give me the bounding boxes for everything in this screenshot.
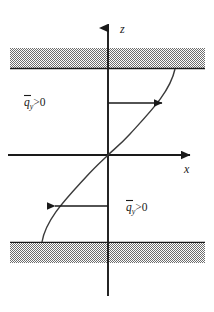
lower-flux-label: qy>0	[126, 201, 148, 216]
upper-flux-relation: >0	[33, 96, 45, 108]
svg-text:qy>0: qy>0	[24, 96, 46, 111]
upper-flux-label: qy>0	[24, 96, 46, 111]
svg-text:qy>0: qy>0	[126, 201, 148, 216]
lower-flux-relation: >0	[135, 201, 147, 213]
x-axis-label: x	[183, 162, 190, 176]
z-axis-label: z	[119, 22, 125, 36]
figure-container: z x qy>0 qy>0	[0, 0, 214, 312]
